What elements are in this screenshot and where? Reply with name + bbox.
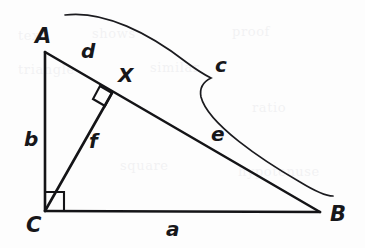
point-label-x: X — [116, 63, 135, 87]
side-label-a: a — [166, 217, 180, 241]
diagram-canvas: text shows proof triangle similar ratio … — [0, 0, 365, 248]
segment-label-d: d — [81, 39, 96, 63]
ghost-mark: square — [120, 158, 169, 173]
ghost-mark: proof — [232, 24, 271, 39]
vertex-label-b: B — [330, 202, 346, 226]
ghost-mark: ratio — [252, 100, 286, 115]
geometry-figure: text shows proof triangle similar ratio … — [0, 0, 365, 248]
side-a-line — [45, 211, 320, 212]
vertex-label-a: A — [33, 24, 51, 48]
side-c-hypotenuse-line — [45, 52, 320, 212]
side-label-b: b — [24, 127, 38, 151]
background-bleed-through: text shows proof triangle similar ratio … — [18, 24, 320, 179]
altitude-label-f: f — [89, 129, 100, 153]
altitude-f-line — [45, 93, 112, 211]
vertex-label-c: C — [26, 213, 42, 237]
ghost-mark: shows — [92, 26, 136, 41]
side-label-c: c — [215, 53, 227, 77]
segment-label-e: e — [211, 122, 225, 146]
